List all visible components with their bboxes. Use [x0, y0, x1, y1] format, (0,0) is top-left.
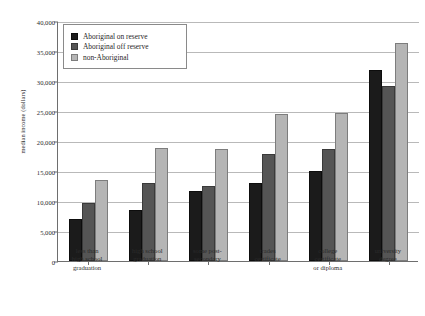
y-tick-label: 25,000	[37, 109, 55, 116]
x-tick-label: less thanhigh schoolgraduation	[54, 247, 120, 272]
bar	[262, 154, 275, 261]
bar-group	[359, 21, 419, 261]
legend-label-2: non-Aboriginal	[83, 53, 129, 62]
legend: Aboriginal on reserve Aboriginal off res…	[63, 24, 187, 69]
y-tick-label: 10,000	[37, 199, 55, 206]
legend-item-1: Aboriginal off reserve	[71, 42, 180, 51]
bar	[155, 148, 168, 261]
bar	[382, 86, 395, 261]
x-tick-label: high schoolgraduation	[114, 247, 180, 264]
legend-item-2: non-Aboriginal	[71, 53, 180, 62]
bar	[322, 149, 335, 261]
legend-swatch-icon-0	[71, 33, 78, 40]
y-tick-label: 35,000	[37, 49, 55, 56]
x-tick-label: universitydegree	[355, 247, 421, 264]
y-axis-label: median income (dollars)	[19, 67, 26, 177]
bar-group	[239, 21, 299, 261]
bar-group	[178, 21, 238, 261]
bar	[369, 70, 382, 261]
legend-label-0: Aboriginal on reserve	[83, 32, 147, 41]
legend-swatch-icon-1	[71, 43, 78, 50]
bar	[215, 149, 228, 261]
legend-swatch-icon-2	[71, 54, 78, 61]
bar-group	[299, 21, 359, 261]
y-tick-label: 15,000	[37, 169, 55, 176]
bar	[335, 113, 348, 261]
y-tick-label: 30,000	[37, 79, 55, 86]
legend-label-1: Aboriginal off reserve	[83, 42, 149, 51]
y-tick-label: 40,000	[37, 19, 55, 26]
bar-chart: median income (dollars) 05,00010,00015,0…	[0, 0, 425, 316]
x-tick-label: some post-secondary	[174, 247, 240, 264]
legend-item-0: Aboriginal on reserve	[71, 32, 180, 41]
bar	[275, 114, 288, 261]
y-tick-label: 20,000	[37, 139, 55, 146]
bar	[395, 43, 408, 261]
x-tick-label: collegecertificateor diploma	[295, 247, 361, 272]
y-tick-label: 5,000	[40, 229, 55, 236]
x-tick-label: tradescertificate	[235, 247, 301, 264]
